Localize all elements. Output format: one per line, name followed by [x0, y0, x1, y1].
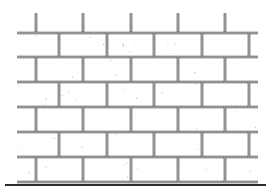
- brick-wall-illustration: [0, 0, 271, 196]
- mortar-joints: [17, 13, 258, 182]
